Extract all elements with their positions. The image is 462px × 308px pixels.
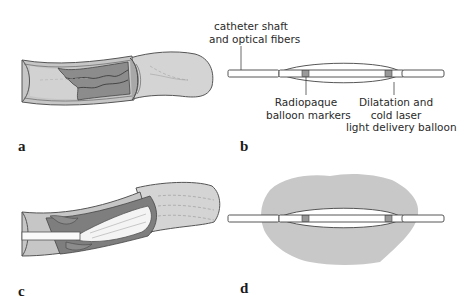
- balloon-catheter: [228, 46, 444, 95]
- balloon-label-line1: Dilatation and: [346, 96, 446, 109]
- artery-with-plaque: [22, 52, 213, 105]
- panel-label-b: b: [240, 138, 248, 155]
- light-emitting-balloon: [228, 174, 444, 265]
- catheter-label-line2: and optical fibers: [209, 33, 300, 46]
- panel-label-d: d: [240, 280, 248, 297]
- panel-label-c: c: [18, 283, 25, 300]
- figure-canvas: [0, 0, 462, 308]
- catheter-label-line1: catheter shaft: [214, 20, 300, 33]
- balloon-label: Dilatation and cold laser light delivery…: [346, 96, 446, 134]
- balloon-label-line3: light delivery balloon: [346, 121, 446, 134]
- radiopaque-markers-label: Radiopaque balloon markers: [266, 96, 346, 121]
- catheter-shaft-label: catheter shaft and optical fibers: [214, 20, 300, 45]
- panel-label-a: a: [18, 138, 26, 155]
- catheter-in-artery: [22, 182, 220, 256]
- balloon-label-line2: cold laser: [346, 109, 446, 122]
- markers-label-line2: balloon markers: [266, 109, 346, 122]
- markers-label-line1: Radiopaque: [266, 96, 346, 109]
